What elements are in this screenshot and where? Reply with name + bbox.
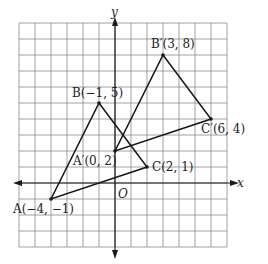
svg-text:C′(6, 4): C′(6, 4) [201,122,245,136]
svg-text:A′(0, 2): A′(0, 2) [72,154,117,168]
svg-text:C(2, 1): C(2, 1) [152,160,193,174]
y-axis-arrow-down-icon [112,250,118,259]
svg-text:B′(3, 8): B′(3, 8) [151,37,195,51]
plot-svg: xyOA(−4, −1)B(−1, 5)C(2, 1)A′(0, 2)B′(3,… [0,0,268,264]
svg-text:x: x [237,176,244,190]
svg-text:O: O [118,187,128,201]
svg-text:y: y [110,5,118,19]
vertex-labels: xyOA(−4, −1)B(−1, 5)C(2, 1)A′(0, 2)B′(3,… [12,5,245,216]
x-axis-arrow-left-icon [13,180,22,186]
coordinate-plane-diagram: xyOA(−4, −1)B(−1, 5)C(2, 1)A′(0, 2)B′(3,… [0,0,268,264]
svg-text:B(−1, 5): B(−1, 5) [72,86,123,100]
svg-text:A(−4, −1): A(−4, −1) [12,202,74,216]
